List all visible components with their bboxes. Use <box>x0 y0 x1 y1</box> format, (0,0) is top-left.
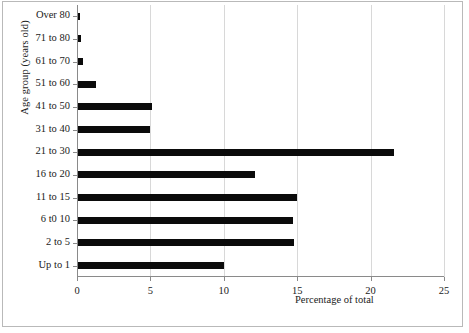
y-tick-label: Up to 1 <box>39 259 71 270</box>
bar <box>77 149 394 156</box>
x-tickmark-20 <box>371 277 372 281</box>
bar-row: Over 80 <box>77 5 444 28</box>
bar-row: 6 t0 10 <box>77 209 444 232</box>
bar <box>77 194 297 201</box>
bar <box>77 81 96 88</box>
x-tick-label: 0 <box>74 285 79 296</box>
x-tick-label: 10 <box>219 285 230 296</box>
y-tick-label: 71 to 80 <box>36 32 70 43</box>
x-tickmark-25 <box>444 277 445 281</box>
bar-row: 71 to 80 <box>77 28 444 51</box>
bar <box>77 239 294 246</box>
plot-area: Over 8071 to 8061 to 7051 to 6041 to 503… <box>77 5 444 277</box>
bar <box>77 262 224 269</box>
x-axis-line <box>77 276 444 277</box>
y-tick-label: 16 to 20 <box>36 168 70 179</box>
bar <box>77 171 255 178</box>
bar-row: 2 to 5 <box>77 232 444 255</box>
bar-row: 51 to 60 <box>77 73 444 96</box>
bar-row: 41 to 50 <box>77 96 444 119</box>
x-tick-label: 25 <box>439 285 450 296</box>
bar-row: 11 to 15 <box>77 186 444 209</box>
x-tick-label: 5 <box>148 285 153 296</box>
bar-row: 61 to 70 <box>77 50 444 73</box>
y-axis-title: Age group (years old) <box>19 0 30 148</box>
bar <box>77 126 150 133</box>
x-tickmark-10 <box>224 277 225 281</box>
x-tickmark-15 <box>297 277 298 281</box>
y-tick-label: 21 to 30 <box>36 145 70 156</box>
x-tickmark-5 <box>150 277 151 281</box>
bar-row: 16 to 20 <box>77 164 444 187</box>
y-tick-label: 41 to 50 <box>36 100 70 111</box>
y-axis-line <box>77 5 78 277</box>
y-tick-label: 31 to 40 <box>36 123 70 134</box>
gridline-x-25 <box>444 5 445 277</box>
bar-row: 31 to 40 <box>77 118 444 141</box>
y-tick-label: 6 t0 10 <box>41 213 70 224</box>
y-tick-label: 51 to 60 <box>36 77 70 88</box>
bar <box>77 103 152 110</box>
bar-row: Up to 1 <box>77 254 444 277</box>
y-tick-label: 2 to 5 <box>46 236 70 247</box>
y-tick-label: 11 to 15 <box>36 191 70 202</box>
y-tick-label: Over 80 <box>36 9 70 20</box>
chart-figure: Age group (years old) Over 8071 to 8061 … <box>0 0 469 333</box>
y-tick-label: 61 to 70 <box>36 55 70 66</box>
x-axis-title: Percentage of total <box>295 294 374 305</box>
x-tickmark-0 <box>77 277 78 281</box>
bar <box>77 217 293 224</box>
bar-row: 21 to 30 <box>77 141 444 164</box>
